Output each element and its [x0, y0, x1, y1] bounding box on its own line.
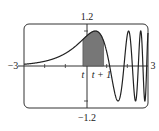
t-label: t [82, 69, 85, 80]
x-min-label: −3 [8, 60, 19, 71]
function-plot: −3 3 1.2 −1.2 t t + 1 [0, 0, 159, 131]
y-min-label: −1.2 [78, 112, 96, 123]
y-max-label: 1.2 [81, 11, 94, 22]
t-plus-1-label: t + 1 [92, 69, 112, 80]
x-max-label: 3 [151, 60, 156, 71]
